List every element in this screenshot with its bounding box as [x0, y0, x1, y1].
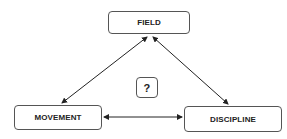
edge-field-discipline: [153, 37, 228, 104]
field-node: FIELD: [108, 11, 190, 34]
edge-field-movement: [62, 37, 147, 103]
discipline-node: DISCIPLINE: [184, 106, 282, 132]
movement-node: MOVEMENT: [14, 105, 102, 130]
question-node: ?: [136, 77, 158, 98]
